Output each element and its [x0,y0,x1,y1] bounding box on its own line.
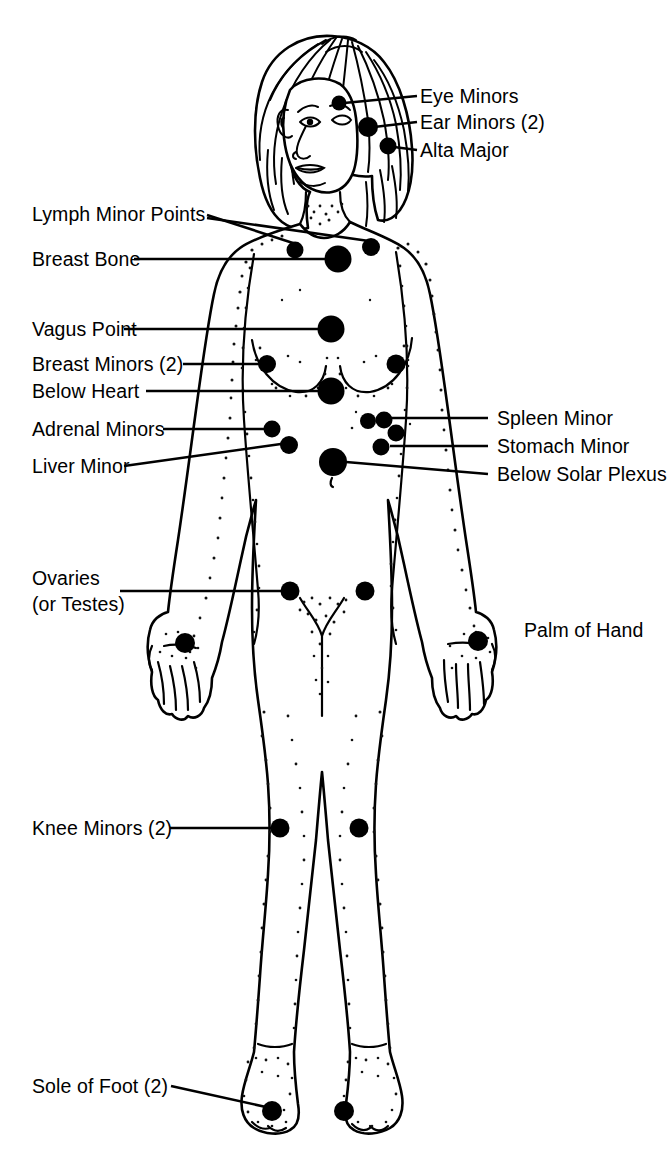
label-stomach-minor: Stomach Minor [497,435,630,457]
point-knee-minor-right [350,819,369,838]
point-lymph-minor-right [362,238,380,256]
point-palm-right [468,631,488,651]
point-below-heart [318,378,345,405]
point-sole-right [334,1101,354,1121]
label-lymph-minor-points: Lymph Minor Points [32,203,206,225]
point-breast-minor-right [387,355,406,374]
label-breast-bone: Breast Bone [32,248,140,270]
point-spleen-minor-b [376,412,393,429]
figure-illustration: Eye Minors Ear Minors (2) Alta Major Lym… [0,0,670,1166]
label-alta-major: Alta Major [420,139,509,161]
point-liver-minor [280,436,298,454]
label-ovaries-line2: (or Testes) [32,593,125,615]
point-ovary-left [281,582,300,601]
label-ear-minors: Ear Minors (2) [420,111,545,133]
label-spleen-minor: Spleen Minor [497,407,614,429]
label-adrenal-minors: Adrenal Minors [32,418,165,440]
point-sole-left [262,1101,282,1121]
point-lymph-minor-left [287,242,304,259]
point-alta-major [380,138,397,155]
label-sole-of-foot: Sole of Foot (2) [32,1075,168,1097]
point-ear-minor [358,117,378,137]
point-stomach-minor-a [388,425,405,442]
label-breast-minors: Breast Minors (2) [32,353,183,375]
label-palm-of-hand: Palm of Hand [524,619,643,641]
point-below-solar-plexus [319,448,347,476]
point-knee-minor-left [271,819,290,838]
point-eye-minor [332,96,347,111]
label-below-heart: Below Heart [32,380,140,402]
point-breast-minor-left [258,355,276,373]
body-chakra-points-diagram: Eye Minors Ear Minors (2) Alta Major Lym… [0,0,670,1166]
point-ovary-right [356,582,375,601]
point-palm-left [175,633,195,653]
label-ovaries-line1: Ovaries [32,567,100,589]
point-breast-bone [325,246,352,273]
label-vagus-point: Vagus Point [32,318,137,340]
label-knee-minors: Knee Minors (2) [32,817,172,839]
label-liver-minor: Liver Minor [32,455,130,477]
label-eye-minors: Eye Minors [420,85,519,107]
point-spleen-minor-a [360,413,376,429]
point-adrenal-minor [264,421,281,438]
point-stomach-minor-b [373,439,390,456]
point-vagus-point [318,316,345,343]
label-below-solar-plexus: Below Solar Plexus [497,463,667,485]
